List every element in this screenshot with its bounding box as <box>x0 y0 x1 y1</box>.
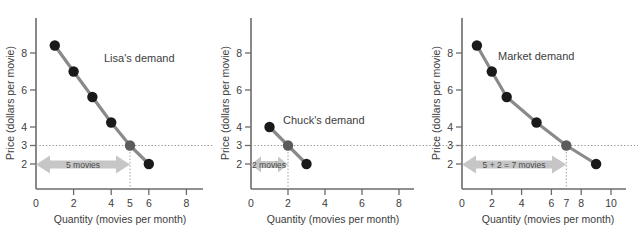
y-axis-title: Price (dollars per movie) <box>219 46 231 160</box>
x-tick-label: 10 <box>605 197 617 209</box>
chart-panel-market: Price (dollars per movie) 8 6 4 3 2 0 2 … <box>426 0 638 234</box>
data-point <box>144 159 154 169</box>
data-point <box>472 40 482 50</box>
y-tick-label: 2 <box>236 158 242 170</box>
y-tick-label: 2 <box>21 158 27 170</box>
chart-svg-market: Price (dollars per movie) 8 6 4 3 2 0 2 … <box>426 0 638 234</box>
y-ticks-chuck <box>245 53 251 164</box>
x-tick-label-highlight: 5 <box>127 197 133 209</box>
annotation-label-lisa: 5 movies <box>66 160 100 170</box>
x-tick-label: 8 <box>578 197 584 209</box>
chart-panel-lisa: Price (dollars per movie) 8 6 4 3 2 0 2 … <box>0 0 215 234</box>
data-point <box>301 159 311 169</box>
curve-label-chuck: Chuck's demand <box>283 114 365 126</box>
x-tick-label: 0 <box>248 197 254 209</box>
y-tick-label: 3 <box>21 139 27 151</box>
y-tick-label: 8 <box>236 47 242 59</box>
y-axis-title: Price (dollars per movie) <box>430 46 442 160</box>
data-point <box>264 122 274 132</box>
x-tick-label: 8 <box>183 197 189 209</box>
x-axis-title: Quantity (movies per month) <box>267 213 399 225</box>
data-point <box>106 117 116 127</box>
data-point <box>87 92 97 102</box>
x-tick-label-highlight: 2 <box>285 197 291 209</box>
data-point-highlight <box>125 140 135 150</box>
y-tick-label: 8 <box>21 47 27 59</box>
x-tick-label: 4 <box>322 197 328 209</box>
y-tick-label: 4 <box>21 121 27 133</box>
data-point <box>68 66 78 76</box>
chart-svg-lisa: Price (dollars per movie) 8 6 4 3 2 0 2 … <box>0 0 215 234</box>
y-tick-label: 6 <box>236 84 242 96</box>
x-tick-label-highlight: 7 <box>563 197 569 209</box>
x-tick-label: 4 <box>519 197 525 209</box>
x-tick-label: 4 <box>108 197 114 209</box>
demand-curve-market <box>477 46 596 165</box>
curve-label-lisa: Lisa's demand <box>104 52 175 64</box>
data-point <box>591 159 601 169</box>
y-tick-label: 8 <box>447 47 453 59</box>
y-ticks-lisa <box>30 53 36 164</box>
x-tick-label: 0 <box>33 197 39 209</box>
x-tick-label: 2 <box>489 197 495 209</box>
x-tick-label: 6 <box>146 197 152 209</box>
x-ticks-chuck <box>288 189 399 195</box>
data-point-highlight <box>283 140 293 150</box>
chart-svg-chuck: Price (dollars per movie) 8 6 4 3 2 0 2 … <box>215 0 426 234</box>
data-point <box>502 92 512 102</box>
x-tick-label: 2 <box>71 197 77 209</box>
demand-curves-figure: Price (dollars per movie) 8 6 4 3 2 0 2 … <box>0 0 638 234</box>
x-axis-title: Quantity (movies per month) <box>54 213 186 225</box>
data-point <box>531 117 541 127</box>
y-ticks-market <box>456 53 462 164</box>
data-point <box>487 66 497 76</box>
y-tick-label: 6 <box>21 84 27 96</box>
y-axis-title: Price (dollars per movie) <box>4 46 16 160</box>
x-tick-label: 0 <box>459 197 465 209</box>
x-tick-label: 8 <box>396 197 402 209</box>
y-tick-label: 4 <box>236 121 242 133</box>
chart-panel-chuck: Price (dollars per movie) 8 6 4 3 2 0 2 … <box>215 0 426 234</box>
data-point-highlight <box>561 140 571 150</box>
x-tick-label: 6 <box>359 197 365 209</box>
data-point <box>50 40 60 50</box>
y-tick-label: 2 <box>447 158 453 170</box>
y-tick-label: 3 <box>447 139 453 151</box>
x-tick-label: 6 <box>548 197 554 209</box>
x-axis-title: Quantity (movies per month) <box>482 213 614 225</box>
curve-label-market: Market demand <box>498 50 574 62</box>
x-ticks-market <box>492 189 611 195</box>
y-tick-label: 6 <box>447 84 453 96</box>
annotation-label-chuck: 2 movies <box>252 160 286 170</box>
y-tick-label: 4 <box>447 121 453 133</box>
y-tick-label: 3 <box>236 139 242 151</box>
annotation-label-market: 5 + 2 = 7 movies <box>483 160 546 170</box>
x-ticks-lisa <box>74 189 187 195</box>
